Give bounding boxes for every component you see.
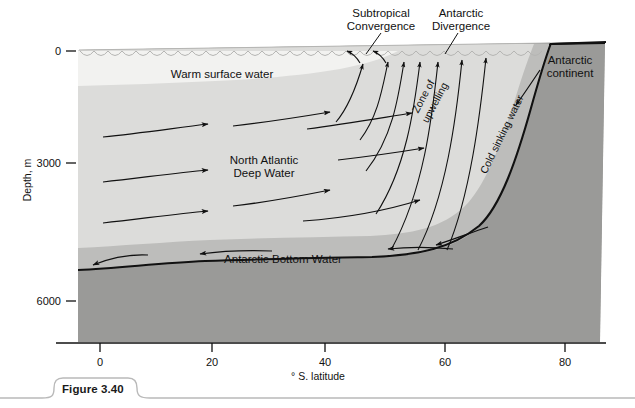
y-tick-label-3000: 3000 bbox=[37, 157, 61, 169]
label-antarctic-divergence-line1: Antarctic bbox=[439, 7, 484, 19]
y-axis-title: Depth, m bbox=[21, 158, 33, 201]
figure-container: 0 3000 6000 Depth, m 0 20 40 60 80 ° S. … bbox=[0, 0, 635, 408]
label-antarctic-continent-line2: continent bbox=[547, 67, 594, 79]
x-tick-label-80: 80 bbox=[559, 356, 571, 368]
ocean-cross-section-diagram: 0 3000 6000 Depth, m 0 20 40 60 80 ° S. … bbox=[0, 0, 635, 408]
y-tick-label-0: 0 bbox=[55, 45, 61, 57]
x-tick-label-60: 60 bbox=[439, 356, 451, 368]
y-axis bbox=[66, 51, 76, 343]
label-antarctic-bottom-water: Antarctic Bottom Water bbox=[224, 253, 342, 265]
label-antarctic-divergence-line2: Divergence bbox=[432, 20, 490, 32]
label-north-atlantic-deep-water-line2: Deep Water bbox=[234, 167, 295, 179]
label-warm-surface-water: Warm surface water bbox=[171, 68, 274, 80]
x-tick-label-0: 0 bbox=[97, 356, 103, 368]
figure-caption-label: Figure 3.40 bbox=[62, 383, 124, 395]
label-subtropical-convergence-line1: Subtropical bbox=[352, 7, 410, 19]
x-axis bbox=[56, 343, 606, 352]
x-tick-label-20: 20 bbox=[206, 356, 218, 368]
label-north-atlantic-deep-water-line1: North Atlantic bbox=[230, 154, 299, 166]
label-antarctic-continent-line1: Antarctic bbox=[548, 54, 593, 66]
y-tick-label-6000: 6000 bbox=[37, 295, 61, 307]
label-subtropical-convergence-line2: Convergence bbox=[347, 20, 415, 32]
x-tick-label-40: 40 bbox=[319, 356, 331, 368]
